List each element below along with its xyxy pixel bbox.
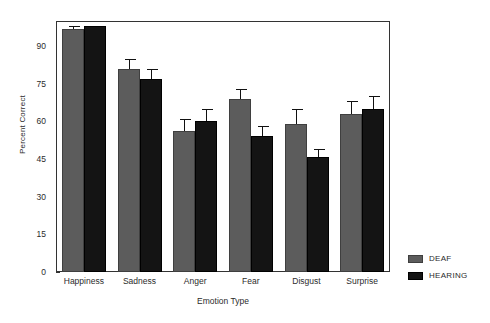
x-category-label: Fear [242,276,259,286]
error-bar-cap [147,69,158,70]
y-tick-mark [56,272,60,273]
y-tick-label: 15 [0,230,46,238]
error-bar [318,149,319,157]
error-bar-cap [369,96,380,97]
error-bar [151,69,152,79]
error-bar [129,59,130,69]
error-bar [73,26,74,29]
error-bar [373,96,374,109]
error-bar-cap [180,119,191,120]
y-tick-label: 30 [0,193,46,201]
bar-deaf [173,131,195,272]
x-category-label: Anger [184,276,207,286]
bar-hearing [362,109,384,272]
error-bar-cap [236,89,247,90]
x-axis-category-labels: HappinessSadnessAngerFearDisgustSurprise [56,276,390,290]
bar-deaf [340,114,362,272]
legend-label: HEARING [429,271,468,280]
legend-item: HEARING [408,268,488,283]
bar-hearing [251,136,273,272]
y-tick-label: 0 [0,268,46,276]
gray-swatch [408,255,423,263]
error-bar [206,109,207,122]
bar-group [229,21,273,272]
error-bar-cap [292,109,303,110]
x-category-label: Surprise [346,276,378,286]
y-tick-label: 75 [0,80,46,88]
x-category-label: Disgust [292,276,320,286]
bar-hearing [84,26,106,272]
bar-hearing [140,79,162,272]
error-bar [240,89,241,99]
error-bar-cap [69,26,80,27]
bar-chart: Percent Correct 0153045607590 HappinessS… [0,0,490,323]
bar-deaf [285,124,307,272]
bar-group [173,21,217,272]
error-bar [262,126,263,136]
error-bar [351,101,352,114]
x-category-label: Happiness [64,276,104,286]
x-axis-title: Emotion Type [56,296,390,306]
bar-group [62,21,106,272]
legend-item: DEAF [408,251,488,266]
chart-legend: DEAFHEARING [408,251,488,285]
x-category-label: Sadness [123,276,156,286]
error-bar-cap [202,109,213,110]
bar-hearing [307,157,329,272]
bar-deaf [229,99,251,272]
legend-label: DEAF [429,254,452,263]
bar-hearing [195,121,217,272]
bar-deaf [62,29,84,272]
y-tick-label: 90 [0,42,46,50]
bar-group [118,21,162,272]
error-bar-cap [125,59,136,60]
error-bar-cap [314,149,325,150]
error-bar-cap [258,126,269,127]
bar-group [285,21,329,272]
y-tick-label: 45 [0,155,46,163]
error-bar-cap [347,101,358,102]
bar-group [340,21,384,272]
y-tick-label: 60 [0,117,46,125]
black-swatch [408,272,423,280]
bar-groups [56,21,390,272]
bar-deaf [118,69,140,272]
error-bar [184,119,185,132]
error-bar [296,109,297,124]
